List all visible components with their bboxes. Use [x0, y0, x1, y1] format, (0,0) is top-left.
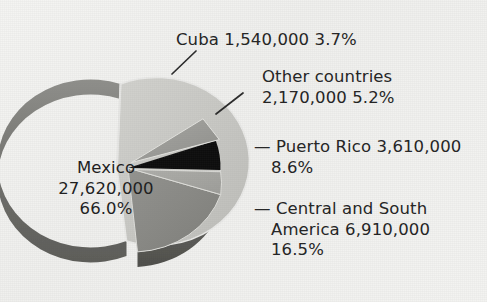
slice-label-other-countries: Other countries 2,170,000 5.2% [262, 67, 395, 108]
central-south-america-label-line1: — Central and South [254, 199, 430, 220]
mexico-label-line1: Mexico [38, 158, 174, 179]
mexico-label-line2: 27,620,000 [38, 179, 174, 200]
other-countries-label-line1: Other countries [262, 67, 395, 88]
slice-label-mexico: Mexico 27,620,000 66.0% [38, 158, 174, 220]
slice-label-puerto-rico: — Puerto Rico 3,610,000 8.6% [254, 137, 461, 178]
central-south-america-label-line2: America 6,910,000 [254, 220, 430, 241]
slice-label-cuba: Cuba 1,540,000 3.7% [176, 30, 357, 51]
puerto-rico-label-line1: — Puerto Rico 3,610,000 [254, 137, 461, 158]
other-countries-label-line2: 2,170,000 5.2% [262, 88, 395, 109]
central-south-america-label-line3: 16.5% [254, 240, 430, 261]
puerto-rico-label-line2: 8.6% [254, 158, 461, 179]
slice-label-central-south-america: — Central and South America 6,910,000 16… [254, 199, 430, 261]
mexico-label-line3: 66.0% [38, 199, 174, 220]
pie-chart-figure: Cuba 1,540,000 3.7% Other countries 2,17… [0, 0, 487, 302]
cuba-label-line1: Cuba 1,540,000 3.7% [176, 30, 357, 51]
leader-line-cuba [172, 51, 196, 74]
